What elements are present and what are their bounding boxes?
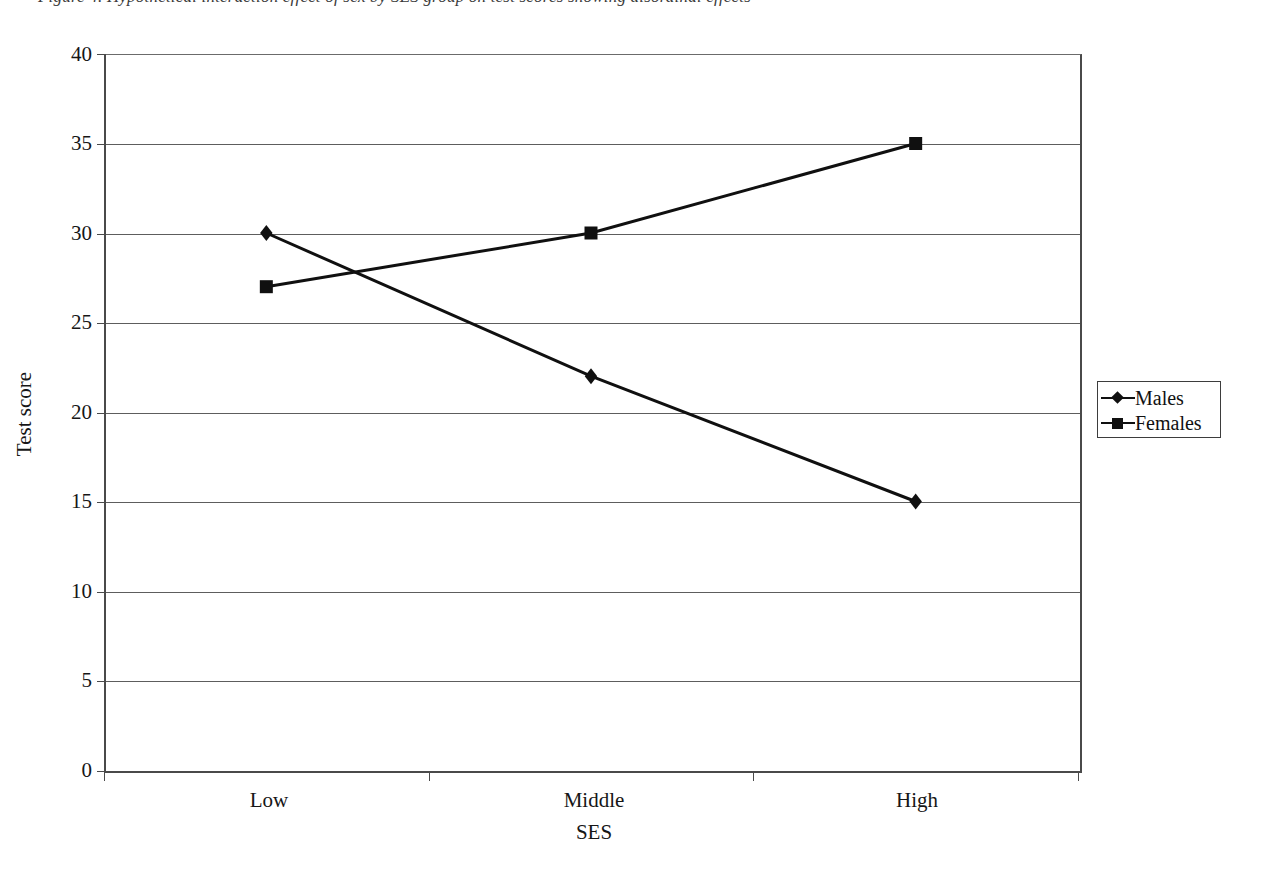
y-tick-mark-20 [97,413,106,414]
y-tick-mark-25 [97,323,106,324]
legend-label-females: Females [1135,413,1202,433]
y-tick-label-10: 10 [71,581,92,602]
chart-legend: Males Females [1097,381,1221,438]
y-tick-mark-35 [97,144,106,145]
y-tick-mark-5 [97,681,106,682]
gridline-10 [106,592,1080,593]
y-tick-label-35: 35 [71,133,92,154]
y-tick-mark-40 [97,54,106,55]
y-tick-label-5: 5 [82,670,93,691]
gridline-20 [106,413,1080,414]
x-tick-mark-low-middle [429,771,430,781]
y-tick-label-0: 0 [82,760,93,781]
y-tick-mark-30 [97,234,106,235]
gridline-30 [106,234,1080,235]
y-tick-label-15: 15 [71,491,92,512]
legend-entry-females: Females [1098,410,1220,435]
legend-entry-males: Males [1098,385,1220,410]
x-tick-label-middle: Middle [564,788,625,813]
chart-canvas: Figure 4. Hypothetical interaction effec… [0,0,1262,872]
y-tick-label-30: 30 [71,223,92,244]
y-tick-mark-10 [97,592,106,593]
y-tick-label-25: 25 [71,312,92,333]
x-axis-title: SES [576,820,612,845]
x-tick-mark-left-edge [104,771,105,781]
x-tick-mark-right-edge [1078,771,1079,781]
y-tick-label-20: 20 [71,402,92,423]
x-tick-label-high: High [896,788,938,813]
gridline-35 [106,144,1080,145]
legend-label-males: Males [1135,388,1184,408]
y-axis-title: Test score [12,372,37,456]
x-tick-label-low: Low [250,788,289,813]
y-tick-mark-15 [97,502,106,503]
figure-caption-clipped: Figure 4. Hypothetical interaction effec… [0,0,1262,11]
y-tick-label-40: 40 [71,44,92,65]
diamond-marker-icon [1101,390,1135,406]
gridline-25 [106,323,1080,324]
gridline-5 [106,681,1080,682]
square-marker-icon [1101,415,1135,431]
plot-area [104,54,1082,773]
figure-caption-text: Figure 4. Hypothetical interaction effec… [38,0,751,7]
y-axis-tick-labels: 40 35 30 25 20 15 10 5 0 [56,0,92,872]
gridline-15 [106,502,1080,503]
x-axis-tick-marks [104,771,1082,783]
x-tick-mark-middle-high [753,771,754,781]
